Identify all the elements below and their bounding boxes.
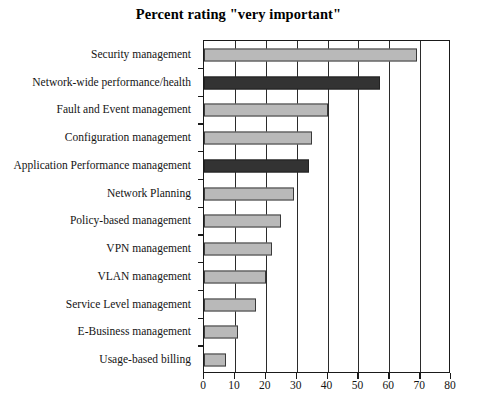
category-label-6: Policy-based management (0, 207, 197, 235)
x-label-10: 10 (228, 379, 240, 391)
bar-8 (204, 270, 266, 283)
bar-row (204, 124, 449, 152)
category-label-3: Configuration management (0, 123, 197, 151)
bar-9 (204, 298, 256, 311)
category-label-10: E-Business management (0, 318, 197, 346)
bar-row (204, 346, 449, 374)
value-axis-labels: 01020304050607080 (203, 379, 450, 399)
bar-row (204, 152, 449, 180)
x-label-70: 70 (413, 379, 425, 391)
x-label-0: 0 (200, 379, 206, 391)
bar-7 (204, 243, 272, 256)
bar-1 (204, 76, 380, 89)
category-label-2: Fault and Event management (0, 96, 197, 124)
bar-row (204, 41, 449, 69)
category-label-4: Application Performance management (0, 151, 197, 179)
x-label-50: 50 (352, 379, 364, 391)
bar-row (204, 180, 449, 208)
bar-rows (204, 41, 449, 372)
category-axis-labels: Security managementNetwork-wide performa… (0, 40, 197, 373)
x-label-20: 20 (259, 379, 271, 391)
bar-11 (204, 354, 226, 367)
category-label-5: Network Planning (0, 179, 197, 207)
bar-chart-figure: Percent rating "very important" Security… (0, 0, 477, 402)
category-label-0: Security management (0, 40, 197, 68)
bar-3 (204, 132, 312, 145)
bar-0 (204, 48, 417, 61)
category-label-8: VLAN management (0, 262, 197, 290)
bar-5 (204, 187, 294, 200)
x-label-40: 40 (321, 379, 333, 391)
bar-row (204, 291, 449, 319)
x-label-60: 60 (383, 379, 395, 391)
category-label-7: VPN management (0, 234, 197, 262)
bar-2 (204, 104, 328, 117)
plot-area (203, 40, 450, 373)
bar-row (204, 235, 449, 263)
category-label-1: Network-wide performance/health (0, 68, 197, 96)
bar-row (204, 69, 449, 97)
bar-row (204, 208, 449, 236)
x-label-80: 80 (444, 379, 456, 391)
category-label-9: Service Level management (0, 290, 197, 318)
bar-row (204, 97, 449, 125)
bar-10 (204, 326, 238, 339)
bar-6 (204, 215, 281, 228)
bar-row (204, 263, 449, 291)
chart-title: Percent rating "very important" (0, 6, 477, 23)
x-label-30: 30 (290, 379, 302, 391)
bar-4 (204, 159, 309, 172)
bar-row (204, 319, 449, 347)
category-label-11: Usage-based billing (0, 345, 197, 373)
